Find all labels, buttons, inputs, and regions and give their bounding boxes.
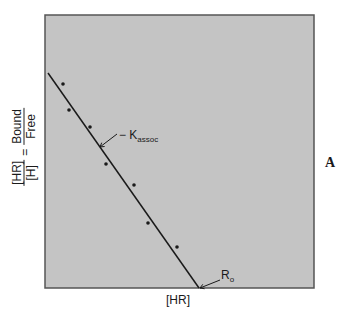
y-fraction-bound-free: Bound Free [11,108,38,145]
data-point [67,108,71,112]
kassoc-main: − K [119,128,137,142]
y-numerator-hr: [HR] [11,160,25,186]
y-equals: = [17,149,31,156]
r0-subscript: o [230,275,234,284]
kassoc-annotation: − Kassoc [119,128,158,144]
kassoc-subscript: assoc [137,135,158,144]
plot-area [45,15,314,288]
y-denominator-h: [H] [25,165,38,180]
scatchard-plot [0,0,350,315]
data-point [61,82,65,86]
data-point [146,221,150,225]
x-axis-label: [HR] [166,293,190,307]
data-point [175,245,179,249]
data-point [104,162,108,166]
y-fraction-hr-h: [HR] [H] [11,160,38,186]
data-point [132,183,136,187]
data-point [88,125,92,129]
y-denominator-free: Free [25,114,38,139]
r0-annotation: Ro [221,268,234,284]
y-numerator-bound: Bound [11,108,25,145]
panel-label: A [325,155,335,171]
y-axis-label: [HR] [H] = Bound Free [2,92,46,202]
r0-main: R [221,268,230,282]
